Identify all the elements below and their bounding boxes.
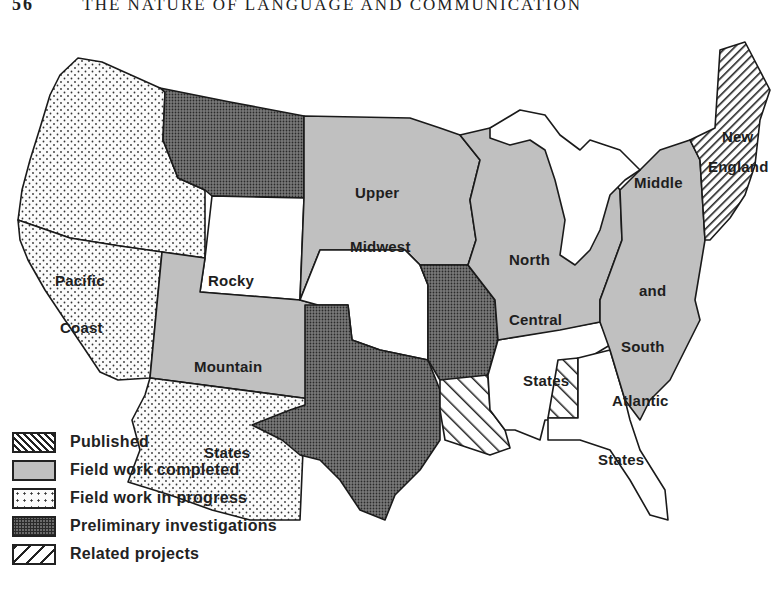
label-rocky: Rocky (208, 272, 254, 289)
legend-label: Field work completed (70, 461, 240, 479)
legend-item-published: Published (12, 428, 277, 456)
legend-label: Related projects (70, 545, 199, 563)
label-central: Central (509, 311, 562, 328)
label-states-atlantic: States (598, 451, 644, 468)
label-north: North (509, 251, 550, 268)
progress-swatch-icon (12, 488, 56, 509)
label-states-central: States (523, 372, 569, 389)
legend: Published Field work completed Field wor… (12, 428, 277, 568)
legend-label: Preliminary investigations (70, 517, 277, 535)
label-mountain: Mountain (194, 358, 262, 375)
label-pacific: Pacific (55, 272, 105, 289)
prelim-swatch-icon (12, 516, 56, 537)
label-midwest: Midwest (350, 238, 411, 255)
related-swatch-icon (12, 544, 56, 565)
label-coast: Coast (60, 319, 103, 336)
legend-item-related: Related projects (12, 540, 277, 568)
label-and: and (639, 282, 666, 299)
label-upper: Upper (355, 184, 399, 201)
label-south: South (621, 338, 665, 355)
label-atlantic: Atlantic (612, 392, 669, 409)
legend-label: Field work in progress (70, 489, 247, 507)
legend-item-progress: Field work in progress (12, 484, 277, 512)
published-swatch-icon (12, 432, 56, 453)
label-england: England (708, 158, 769, 175)
legend-item-completed: Field work completed (12, 456, 277, 484)
completed-swatch-icon (12, 460, 56, 481)
legend-item-prelim: Preliminary investigations (12, 512, 277, 540)
label-middle: Middle (634, 174, 683, 191)
label-new: New (722, 128, 754, 145)
legend-label: Published (70, 433, 149, 451)
